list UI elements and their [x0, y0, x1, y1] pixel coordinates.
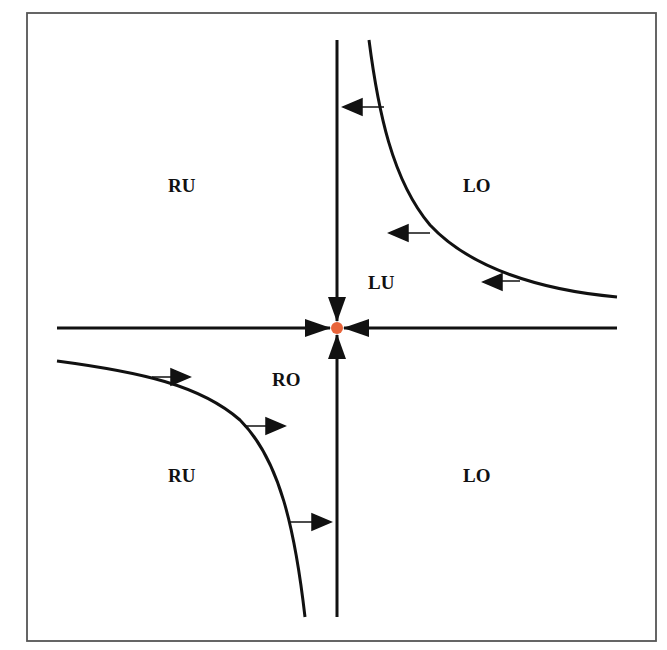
phase-diagram: RU LO LU RO RU LO [0, 0, 667, 650]
equilibrium-point [331, 322, 343, 334]
region-label-lu: LU [368, 272, 395, 293]
region-label-lo-top: LO [463, 175, 490, 196]
region-label-ru-bottom: RU [168, 465, 196, 486]
region-label-lo-bottom: LO [463, 465, 490, 486]
region-label-ru-top: RU [168, 175, 196, 196]
region-label-ro: RO [272, 369, 301, 390]
